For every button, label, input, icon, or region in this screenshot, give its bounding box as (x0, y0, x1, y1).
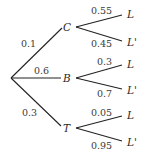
prob-label-b-lprime: 0.7 (97, 88, 112, 99)
edge-c-to-l (76, 15, 122, 27)
node-t: T (63, 122, 71, 134)
node-b: B (62, 72, 71, 84)
leaf-t-lprime: L' (126, 136, 137, 148)
node-c: C (63, 21, 71, 33)
prob-label-b: 0.6 (34, 65, 49, 76)
leaf-t-l: L (126, 109, 134, 121)
prob-label-b-l: 0.3 (97, 56, 112, 67)
prob-label-t-lprime: 0.95 (91, 140, 112, 151)
leaf-c-lprime: L' (126, 36, 137, 48)
prob-label-c-lprime: 0.45 (91, 38, 112, 49)
leaf-b-lprime: L' (126, 84, 137, 96)
prob-label-t-l: 0.05 (91, 107, 112, 118)
prob-label-t: 0.3 (22, 107, 37, 118)
edge-root-to-t (11, 78, 61, 126)
leaf-c-l: L (126, 8, 134, 20)
prob-label-c-l: 0.55 (91, 5, 112, 16)
prob-label-c: 0.1 (21, 38, 36, 49)
leaf-b-l: L (126, 58, 134, 70)
probability-tree-diagram: 0.1 0.6 0.3 C B T 0.55 0.45 0.3 0.7 0.05… (0, 0, 148, 155)
